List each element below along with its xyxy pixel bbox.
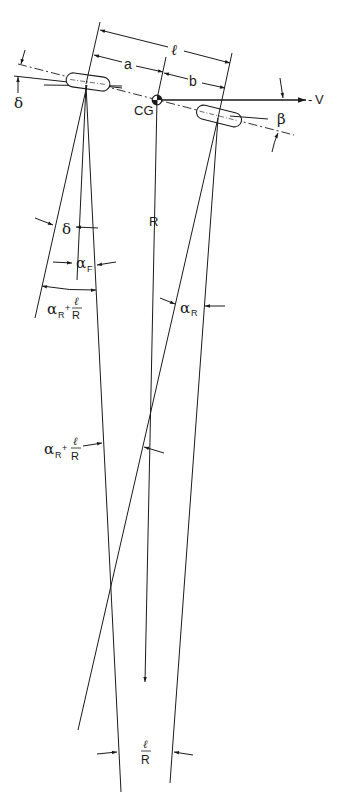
svg-text:R: R (58, 310, 65, 320)
svg-text:R: R (71, 450, 79, 462)
vehicle-turn-diagram: ℓ a b CG - V β δ R δ α F α R + (0, 0, 341, 806)
svg-text:α: α (47, 300, 57, 318)
l-over-r-label: ℓ R (141, 738, 151, 767)
alpha-r-plus-l-over-r-arrow-left (83, 443, 102, 446)
svg-text:R: R (141, 753, 150, 767)
rear-slip-ray (78, 118, 218, 730)
svg-text:ℓ: ℓ (143, 738, 148, 751)
alpha-r-plus-l-over-r-label-1: α R + ℓ R (47, 295, 82, 321)
rear-radius-ray (170, 118, 218, 783)
rear-slip-arrow-left (160, 298, 175, 304)
alpha-r-plus-l-over-r-label-2: α R + ℓ R (44, 435, 81, 462)
front-radius-ray (86, 85, 121, 792)
svg-text:α: α (44, 440, 54, 458)
front-distance-label: a (124, 56, 132, 72)
alpha-r-plus-l-over-r-arrow-right (144, 447, 164, 453)
front-slip-ray (77, 85, 86, 280)
sideslip-arrow-top (280, 78, 283, 98)
steer-angle-arrow-top (21, 50, 25, 64)
wheelbase-label: ℓ (171, 41, 177, 59)
cg-label: CG (134, 103, 154, 118)
sideslip-label: β (277, 110, 286, 128)
rear-distance-dimension-right (202, 83, 225, 88)
front-slip-label: α (76, 254, 86, 272)
front-slip-subscript: F (87, 264, 93, 274)
steer-angle-mid-arrow-left (35, 218, 53, 225)
svg-text:ℓ: ℓ (74, 295, 79, 308)
velocity-label: V (315, 92, 324, 107)
l-over-r-arrow-left (97, 752, 117, 754)
front-steer-ray (35, 85, 87, 318)
rear-distance-dimension-left (164, 73, 188, 79)
svg-text:ℓ: ℓ (73, 435, 78, 448)
cg-reference-line (157, 57, 166, 99)
sideslip-arrow-bottom (272, 133, 278, 152)
svg-text:R: R (55, 450, 62, 460)
radius-label: R (149, 214, 158, 229)
wheelbase-dimension-left (100, 30, 168, 47)
front-axle-reference-line (86, 22, 100, 84)
front-distance-dimension-right (136, 66, 163, 72)
wheelbase-dimension-right (184, 51, 230, 63)
steer-angle-label-top: δ (14, 94, 23, 112)
front-slip-arrow-left (53, 262, 72, 263)
front-distance-dimension-left (94, 55, 122, 62)
alpha-r-plus-l-over-r-arc-1 (42, 286, 96, 290)
svg-text:+: + (65, 303, 70, 313)
rear-slip-subscript: R (191, 308, 198, 318)
front-slip-arrow-right (97, 262, 116, 265)
velocity-label-dash: - (308, 92, 312, 107)
steer-angle-label-mid: δ (62, 220, 71, 238)
svg-text:+: + (62, 443, 67, 453)
rear-distance-label: b (189, 73, 197, 89)
rear-slip-label: α (180, 299, 190, 317)
svg-text:R: R (72, 309, 80, 321)
l-over-r-arrow-right (174, 752, 193, 755)
